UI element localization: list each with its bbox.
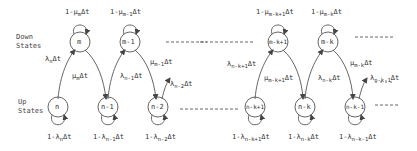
- fail-rate-n-2: λn-2Δt: [170, 80, 193, 90]
- diagram-graphics: [0, 0, 417, 151]
- self-prob-n-k+1: 1-λn-k+1Δt: [232, 133, 270, 143]
- self-prob-m-k+1: 1-μm-k+1Δt: [256, 8, 294, 18]
- up-label-line2: States: [18, 107, 43, 116]
- self-prob-m-1: 1-μm-1Δt: [110, 8, 141, 18]
- fail-rate-n: λnΔt: [45, 55, 61, 65]
- fail-rate-n-k+1: λn-k+1Δt: [227, 60, 256, 70]
- node-n-k: n-k: [298, 103, 311, 111]
- node-m: m: [77, 38, 81, 46]
- node-n: n: [55, 103, 59, 111]
- self-prob-n-k-1: 1-λn-k-1Δt: [339, 133, 377, 143]
- up-label-line1: Up: [18, 98, 43, 107]
- repair-rate-m: μmΔt: [72, 72, 88, 82]
- node-m-1: m-1: [122, 38, 135, 46]
- node-m-k+1: m-k+1: [269, 38, 287, 46]
- fail-rate-n-1: λn-1Δt: [120, 72, 143, 82]
- fail-rate-n-k-1: λn-k-1Δt: [370, 74, 399, 84]
- node-n-2: n-2: [151, 103, 164, 111]
- up-states-label: Up States: [18, 98, 43, 116]
- down-states-label: Down States: [16, 33, 41, 51]
- repair-rate-m-k+1: μm-k+1Δt: [264, 74, 293, 84]
- self-prob-n-k: 1-λn-kΔt: [288, 133, 319, 143]
- node-n-1: n-1: [101, 103, 114, 111]
- self-prob-n-2: 1-λn-2Δt: [145, 133, 176, 143]
- node-m-k: m-k: [321, 38, 334, 46]
- markov-state-diagram: Down States Up States m m-1 m-k+1 m-k n …: [0, 0, 417, 151]
- fail-rate-n-k: λn-kΔt: [318, 74, 341, 84]
- self-prob-n: 1-λnΔt: [47, 133, 71, 143]
- self-prob-n-1: 1-λn-1Δt: [93, 133, 124, 143]
- node-n-k+1: n-k+1: [246, 103, 264, 111]
- node-n-k-1: n-k-1: [346, 103, 364, 111]
- repair-rate-m-1: μm-1Δt: [150, 58, 173, 68]
- self-prob-m-k: 1-μm-kΔt: [311, 8, 342, 18]
- repair-rate-m-k: μm-kΔt: [350, 59, 373, 69]
- down-label-line1: Down: [16, 33, 41, 42]
- down-label-line2: States: [16, 42, 41, 51]
- self-prob-m: 1-μmΔt: [65, 8, 89, 18]
